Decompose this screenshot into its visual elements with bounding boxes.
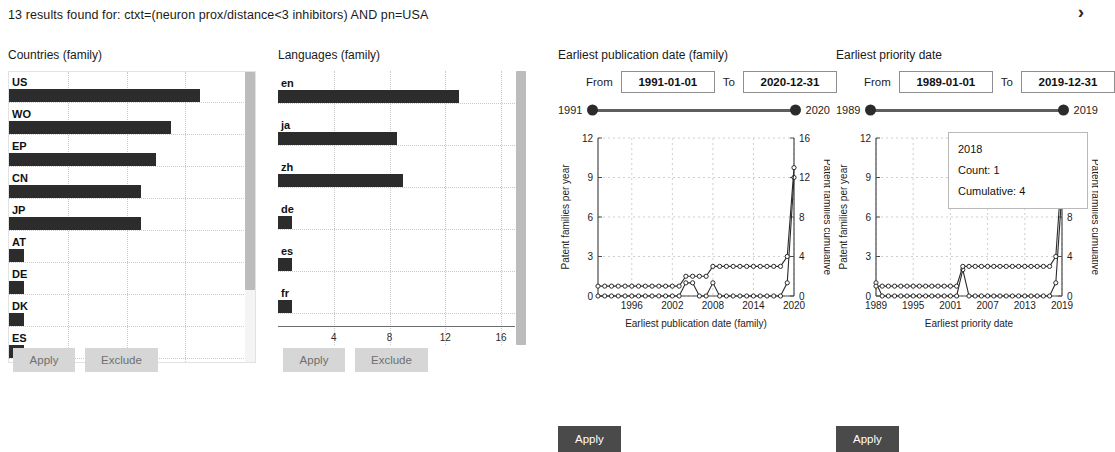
series-point[interactable] bbox=[930, 284, 934, 288]
series-point[interactable] bbox=[886, 294, 890, 298]
facet-bar[interactable] bbox=[278, 258, 292, 271]
series-point[interactable] bbox=[772, 264, 776, 268]
priority-to-input[interactable] bbox=[1021, 71, 1115, 93]
series-point[interactable] bbox=[986, 294, 990, 298]
publication-timeseries-chart[interactable]: 036912048121619962002200820142020Patent … bbox=[558, 126, 830, 332]
series-point[interactable] bbox=[1004, 264, 1008, 268]
series-point[interactable] bbox=[636, 294, 640, 298]
series-point[interactable] bbox=[738, 294, 742, 298]
facet-bar-row[interactable]: DK bbox=[9, 300, 244, 332]
chevron-right-icon[interactable]: › bbox=[1078, 2, 1084, 21]
facet-bar[interactable] bbox=[278, 216, 292, 229]
series-point[interactable] bbox=[924, 294, 928, 298]
series-point[interactable] bbox=[961, 264, 965, 268]
series-point[interactable] bbox=[643, 294, 647, 298]
facet-bar-row[interactable]: DE bbox=[9, 268, 244, 300]
series-point[interactable] bbox=[650, 284, 654, 288]
series-point[interactable] bbox=[886, 284, 890, 288]
languages-scrollbar[interactable] bbox=[516, 71, 526, 345]
series-point[interactable] bbox=[684, 281, 688, 285]
facet-bar-row[interactable]: AT bbox=[9, 236, 244, 268]
countries-exclude-button[interactable]: Exclude bbox=[85, 348, 158, 372]
facet-bar-row[interactable]: es bbox=[278, 245, 515, 287]
facet-bar-row[interactable]: US bbox=[9, 76, 244, 108]
priority-slider-knob-right[interactable] bbox=[1058, 105, 1069, 116]
series-point[interactable] bbox=[677, 284, 681, 288]
series-point[interactable] bbox=[917, 284, 921, 288]
series-point[interactable] bbox=[724, 264, 728, 268]
series-point[interactable] bbox=[899, 284, 903, 288]
series-point[interactable] bbox=[893, 284, 897, 288]
priority-apply-button[interactable]: Apply bbox=[836, 426, 899, 452]
series-point[interactable] bbox=[609, 294, 613, 298]
series-point[interactable] bbox=[1048, 264, 1052, 268]
series-point[interactable] bbox=[917, 294, 921, 298]
series-point[interactable] bbox=[697, 294, 701, 298]
priority-slider-knob-left[interactable] bbox=[865, 105, 876, 116]
series-point[interactable] bbox=[992, 264, 996, 268]
facet-bar[interactable] bbox=[9, 121, 171, 134]
series-point[interactable] bbox=[596, 294, 600, 298]
series-point[interactable] bbox=[1041, 264, 1045, 268]
series-point[interactable] bbox=[924, 284, 928, 288]
series-point[interactable] bbox=[643, 284, 647, 288]
series-point[interactable] bbox=[967, 294, 971, 298]
series-point[interactable] bbox=[765, 294, 769, 298]
series-point[interactable] bbox=[1054, 281, 1058, 285]
series-point[interactable] bbox=[691, 274, 695, 278]
series-point[interactable] bbox=[1017, 264, 1021, 268]
series-point[interactable] bbox=[973, 294, 977, 298]
countries-scroll-thumb[interactable] bbox=[245, 72, 255, 290]
series-point[interactable] bbox=[636, 284, 640, 288]
series-point[interactable] bbox=[1035, 264, 1039, 268]
series-point[interactable] bbox=[911, 284, 915, 288]
series-point[interactable] bbox=[704, 274, 708, 278]
series-point[interactable] bbox=[992, 294, 996, 298]
series-point[interactable] bbox=[905, 294, 909, 298]
series-point[interactable] bbox=[911, 294, 915, 298]
series-point[interactable] bbox=[765, 264, 769, 268]
series-point[interactable] bbox=[1029, 294, 1033, 298]
series-point[interactable] bbox=[691, 281, 695, 285]
series-point[interactable] bbox=[616, 284, 620, 288]
publication-slider-knob-left[interactable] bbox=[587, 105, 598, 116]
series-point[interactable] bbox=[1010, 264, 1014, 268]
series-point[interactable] bbox=[930, 294, 934, 298]
facet-bar-row[interactable]: zh bbox=[278, 161, 515, 203]
series-point[interactable] bbox=[942, 294, 946, 298]
publication-slider-track[interactable] bbox=[589, 109, 798, 112]
series-point[interactable] bbox=[711, 264, 715, 268]
countries-chart[interactable]: USWOEPCNJPATDEDKES bbox=[8, 71, 256, 363]
series-point[interactable] bbox=[905, 284, 909, 288]
languages-exclude-button[interactable]: Exclude bbox=[355, 348, 428, 372]
facet-bar[interactable] bbox=[278, 300, 292, 313]
series-point[interactable] bbox=[792, 166, 796, 170]
countries-scrollbar[interactable] bbox=[245, 72, 255, 362]
facet-bar-row[interactable]: CN bbox=[9, 172, 244, 204]
series-point[interactable] bbox=[704, 294, 708, 298]
series-point[interactable] bbox=[880, 284, 884, 288]
facet-bar[interactable] bbox=[278, 132, 397, 145]
series-point[interactable] bbox=[1041, 294, 1045, 298]
series-point[interactable] bbox=[1004, 294, 1008, 298]
series-point[interactable] bbox=[738, 264, 742, 268]
languages-scroll-thumb[interactable] bbox=[516, 71, 526, 345]
series-point[interactable] bbox=[772, 294, 776, 298]
series-point[interactable] bbox=[893, 294, 897, 298]
series-point[interactable] bbox=[623, 284, 627, 288]
series-point[interactable] bbox=[998, 294, 1002, 298]
facet-bar[interactable] bbox=[9, 89, 200, 102]
priority-from-input[interactable] bbox=[899, 71, 993, 93]
series-point[interactable] bbox=[1023, 294, 1027, 298]
series-point[interactable] bbox=[948, 284, 952, 288]
series-point[interactable] bbox=[751, 294, 755, 298]
series-point[interactable] bbox=[616, 294, 620, 298]
priority-slider-track[interactable] bbox=[867, 109, 1066, 112]
publication-slider-knob-right[interactable] bbox=[790, 105, 801, 116]
series-point[interactable] bbox=[785, 254, 789, 258]
series-point[interactable] bbox=[603, 284, 607, 288]
series-point[interactable] bbox=[650, 294, 654, 298]
facet-bar-row[interactable]: ja bbox=[278, 119, 515, 161]
series-point[interactable] bbox=[936, 284, 940, 288]
series-point[interactable] bbox=[778, 294, 782, 298]
